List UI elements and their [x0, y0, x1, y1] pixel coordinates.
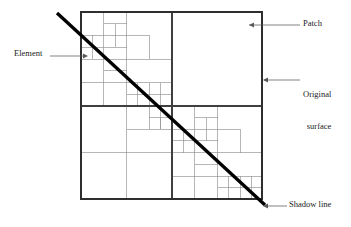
leader-shadow-line [263, 204, 287, 209]
label-original-surface: Original surface [303, 68, 331, 142]
mesh-structural-lines [81, 12, 262, 199]
quadtree-shadow-diagram [0, 0, 351, 227]
label-shadow-line: Shadow line [289, 199, 331, 210]
label-element: Element [14, 48, 42, 59]
label-patch: Patch [303, 18, 322, 29]
label-original-surface-line1: Original [303, 89, 331, 100]
leader-patch [249, 23, 300, 28]
shadow-line [57, 13, 265, 205]
label-original-surface-line2: surface [303, 121, 331, 132]
leader-element [50, 54, 88, 59]
leader-original-surface [263, 78, 300, 83]
